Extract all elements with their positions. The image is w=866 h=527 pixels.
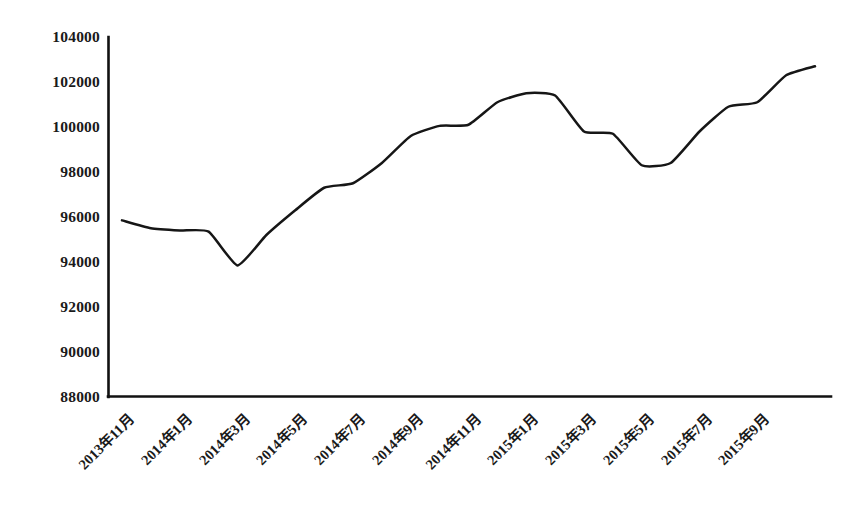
line-chart: 1040001020001000009800096000940009200090…: [0, 0, 866, 527]
plot-area: [0, 0, 866, 527]
data-series-line: [122, 66, 815, 265]
